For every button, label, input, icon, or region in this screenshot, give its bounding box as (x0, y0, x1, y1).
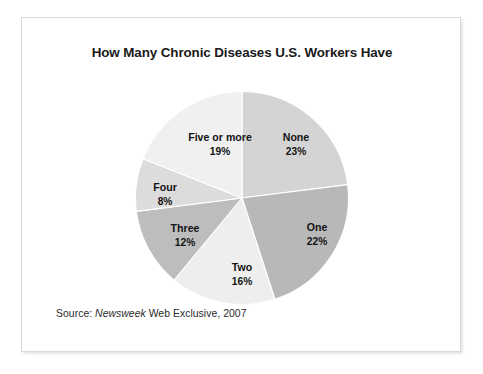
pie-slice-group (135, 92, 348, 305)
source-suffix: Web Exclusive, 2007 (149, 308, 247, 319)
figure-container: How Many Chronic Diseases U.S. Workers H… (0, 0, 483, 374)
figure-frame: How Many Chronic Diseases U.S. Workers H… (21, 17, 461, 352)
pie-chart-svg (135, 91, 349, 305)
pie-slice-none (242, 92, 348, 199)
page-title: How Many Chronic Diseases U.S. Workers H… (22, 45, 462, 60)
source-prefix: Source: (56, 308, 92, 319)
source-note: Source: Newsweek Web Exclusive, 2007 (56, 308, 246, 319)
source-publication: Newsweek (95, 308, 146, 319)
pie-chart (135, 91, 349, 305)
